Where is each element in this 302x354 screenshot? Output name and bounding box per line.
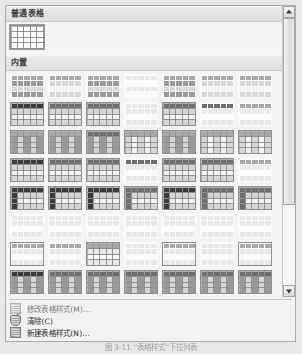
- table-style-thumbnail[interactable]: [124, 158, 158, 182]
- table-style-thumbnail[interactable]: [48, 74, 82, 98]
- thumbnail-cell: [62, 109, 67, 114]
- table-style-thumbnail[interactable]: [162, 270, 196, 294]
- table-style-thumbnail[interactable]: [124, 270, 158, 294]
- table-style-thumbnail[interactable]: [48, 130, 82, 154]
- command-clear[interactable]: 清除(C): [6, 314, 295, 326]
- thumbnail-cell: [176, 272, 181, 277]
- command-new[interactable]: 新建表格样式(N)...: [6, 326, 295, 338]
- thumbnail-cell: [189, 143, 194, 148]
- table-style-thumbnail[interactable]: [238, 242, 272, 266]
- table-style-thumbnail[interactable]: [10, 242, 44, 266]
- table-style-thumbnail[interactable]: [86, 214, 120, 238]
- table-style-thumbnail[interactable]: [238, 270, 272, 294]
- thumbnail-cell: [126, 277, 131, 282]
- table-style-thumbnail[interactable]: [238, 130, 272, 154]
- scroll-down-button[interactable]: [283, 285, 295, 297]
- table-style-thumbnail[interactable]: [200, 186, 234, 210]
- table-style-thumbnail[interactable]: [238, 214, 272, 238]
- thumbnail-cell: [100, 120, 105, 125]
- table-style-thumbnail[interactable]: [238, 158, 272, 182]
- table-style-thumbnail[interactable]: [124, 74, 158, 98]
- table-style-thumbnail[interactable]: [238, 186, 272, 210]
- vertical-scrollbar[interactable]: [282, 6, 295, 297]
- thumbnail-cell: [214, 137, 219, 142]
- thumbnail-cell: [75, 249, 80, 254]
- thumbnail-cell: [94, 109, 99, 114]
- table-style-thumbnail[interactable]: [10, 158, 44, 182]
- table-style-thumbnail[interactable]: [10, 186, 44, 210]
- thumbnail-cell: [132, 171, 137, 176]
- table-style-thumbnail[interactable]: [162, 158, 196, 182]
- table-style-thumbnail[interactable]: [86, 270, 120, 294]
- thumbnail-cell: [164, 76, 169, 81]
- table-style-thumbnail[interactable]: [124, 130, 158, 154]
- table-style-thumbnail[interactable]: [48, 214, 82, 238]
- thumbnail-cell: [100, 193, 105, 198]
- table-style-thumbnail[interactable]: [86, 186, 120, 210]
- scroll-up-button[interactable]: [283, 6, 295, 18]
- thumbnail-cell: [31, 81, 36, 86]
- thumbnail-cell: [240, 193, 245, 198]
- table-style-thumbnail[interactable]: [86, 242, 120, 266]
- thumbnail-cell: [265, 143, 270, 148]
- table-style-thumbnail[interactable]: [162, 74, 196, 98]
- table-style-thumbnail[interactable]: [10, 74, 44, 98]
- thumbnail-cell: [94, 81, 99, 86]
- table-style-thumbnail[interactable]: [10, 214, 44, 238]
- thumbnail-cell: [202, 165, 207, 170]
- table-style-thumbnail[interactable]: [10, 25, 44, 49]
- table-style-thumbnail[interactable]: [200, 102, 234, 126]
- table-style-thumbnail[interactable]: [162, 242, 196, 266]
- table-style-thumbnail[interactable]: [200, 214, 234, 238]
- scrollbar-thumb[interactable]: [283, 18, 295, 205]
- thumbnail-cell: [183, 227, 188, 232]
- table-style-thumbnail[interactable]: [86, 102, 120, 126]
- thumbnail-cell: [214, 288, 219, 293]
- table-style-thumbnail[interactable]: [238, 74, 272, 98]
- table-style-thumbnail[interactable]: [124, 214, 158, 238]
- table-style-thumbnail[interactable]: [10, 270, 44, 294]
- table-style-thumbnail[interactable]: [200, 74, 234, 98]
- table-style-thumbnail[interactable]: [10, 102, 44, 126]
- thumbnail-cell: [94, 204, 99, 209]
- table-style-thumbnail[interactable]: [48, 158, 82, 182]
- table-style-thumbnail[interactable]: [124, 102, 158, 126]
- scrollbar-track[interactable]: [283, 18, 295, 285]
- table-style-thumbnail[interactable]: [200, 270, 234, 294]
- thumbnail-cell: [24, 244, 29, 249]
- table-styles-gallery[interactable]: 普通表格 内置 修改表格样式(M)...清除(C)新建表格样式(N)...: [5, 5, 296, 342]
- table-style-thumbnail[interactable]: [86, 74, 120, 98]
- thumbnail-cell: [94, 288, 99, 293]
- table-style-thumbnail[interactable]: [162, 214, 196, 238]
- thumbnail-cell: [31, 199, 36, 204]
- table-style-thumbnail[interactable]: [162, 186, 196, 210]
- table-style-thumbnail[interactable]: [10, 130, 44, 154]
- table-style-thumbnail[interactable]: [48, 242, 82, 266]
- thumbnail-cell: [37, 160, 42, 165]
- thumbnail-cell: [56, 81, 61, 86]
- thumbnail-cell: [252, 165, 257, 170]
- table-style-thumbnail[interactable]: [200, 130, 234, 154]
- table-style-thumbnail[interactable]: [124, 242, 158, 266]
- thumbnail-cell: [138, 232, 143, 237]
- table-style-thumbnail[interactable]: [200, 242, 234, 266]
- table-style-thumbnail[interactable]: [162, 130, 196, 154]
- table-style-thumbnail[interactable]: [48, 270, 82, 294]
- thumbnail-cell: [18, 165, 23, 170]
- table-style-thumbnail[interactable]: [86, 158, 120, 182]
- thumbnail-cell: [18, 132, 23, 137]
- command-modify[interactable]: 修改表格样式(M)...: [6, 302, 295, 314]
- table-style-thumbnail[interactable]: [48, 186, 82, 210]
- thumbnail-cell: [126, 137, 131, 142]
- table-style-thumbnail[interactable]: [48, 102, 82, 126]
- thumbnail-cell: [183, 81, 188, 86]
- table-style-thumbnail[interactable]: [86, 130, 120, 154]
- thumbnail-cell: [24, 104, 29, 109]
- thumbnail-cell: [56, 160, 61, 165]
- thumbnail-row: [201, 176, 233, 182]
- table-style-thumbnail[interactable]: [200, 158, 234, 182]
- table-style-thumbnail[interactable]: [238, 102, 272, 126]
- table-style-thumbnail[interactable]: [124, 186, 158, 210]
- table-style-thumbnail[interactable]: [162, 102, 196, 126]
- thumbnail-cell: [50, 283, 55, 288]
